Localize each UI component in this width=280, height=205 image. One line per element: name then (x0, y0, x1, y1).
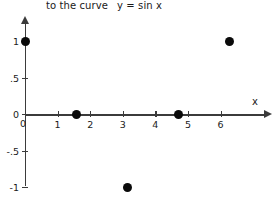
y-tick-mark (22, 151, 28, 152)
x-tick-mark (58, 111, 59, 117)
y-axis-line (25, 22, 27, 186)
x-tick-mark (90, 111, 91, 117)
y-axis-arrowhead (21, 16, 29, 24)
y-tick-label: 0 (13, 109, 19, 120)
data-point (123, 183, 132, 192)
y-tick-mark (22, 78, 28, 79)
data-point (72, 110, 81, 119)
y-tick-label: .5 (10, 72, 19, 83)
x-tick-label: 1 (55, 119, 61, 130)
data-point (21, 37, 30, 46)
plot-area: x 0 123456 1.50-.5-1 (0, 0, 280, 205)
x-axis-label: x (252, 96, 258, 107)
x-axis-line (25, 114, 268, 116)
sine-sample-points-figure: to the curvey = sin x x 0 123456 1.50-.5… (0, 0, 280, 205)
data-point (225, 37, 234, 46)
y-tick-mark (22, 187, 28, 188)
x-axis-arrowhead (264, 110, 272, 118)
x-tick-label: 6 (218, 119, 224, 130)
y-tick-label: -.5 (7, 145, 20, 156)
x-tick-mark (155, 111, 156, 117)
data-point (174, 110, 183, 119)
y-tick-label: -1 (10, 182, 19, 193)
x-tick-label: 4 (152, 119, 158, 130)
x-tick-label: 3 (120, 119, 126, 130)
x-tick-label: 5 (185, 119, 191, 130)
y-tick-label: 1 (13, 36, 19, 47)
x-tick-mark (221, 111, 222, 117)
x-tick-label: 2 (87, 119, 93, 130)
x-tick-mark (123, 111, 124, 117)
y-tick-mark (22, 114, 28, 115)
x-tick-mark (188, 111, 189, 117)
origin-label: 0 (20, 118, 26, 129)
